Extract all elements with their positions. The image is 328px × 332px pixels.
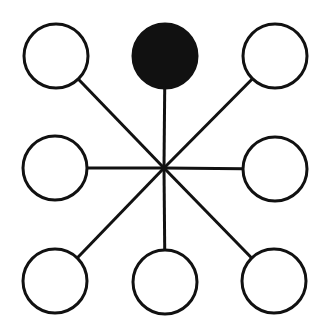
edge-middle-right (164, 168, 243, 169)
node-top-right (243, 24, 307, 88)
star-network-diagram (0, 0, 328, 332)
node-middle-right (243, 137, 307, 201)
node-top-left (24, 24, 88, 88)
edge-top-left (78, 79, 164, 168)
node-middle-left (23, 136, 87, 200)
edge-bottom-right (164, 168, 252, 258)
edges (77, 79, 252, 258)
node-top-center (133, 24, 197, 88)
node-bottom-left (23, 249, 87, 313)
edge-bottom-center (164, 168, 165, 250)
edge-top-right (164, 79, 252, 168)
edge-bottom-left (77, 168, 164, 258)
node-bottom-right (242, 249, 306, 313)
node-bottom-center (133, 250, 197, 314)
edge-top-center (164, 88, 165, 168)
